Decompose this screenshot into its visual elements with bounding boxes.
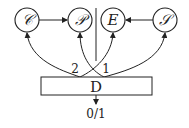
- box-d: D: [41, 77, 152, 96]
- diagram-canvas: 𝒞 𝒫 E 𝒮 2 1 D 0/1: [0, 0, 189, 128]
- node-e: E: [101, 8, 125, 32]
- node-s: 𝒮: [153, 8, 177, 32]
- svg-text:E: E: [107, 11, 119, 29]
- port-label-2: 2: [71, 62, 79, 76]
- node-c: 𝒞: [15, 8, 39, 32]
- port-label-1: 1: [102, 62, 110, 76]
- svg-text:D: D: [90, 78, 102, 96]
- output-label: 0/1: [86, 107, 105, 121]
- node-p: 𝒫: [68, 8, 92, 32]
- edge-d-to-s: [104, 33, 165, 77]
